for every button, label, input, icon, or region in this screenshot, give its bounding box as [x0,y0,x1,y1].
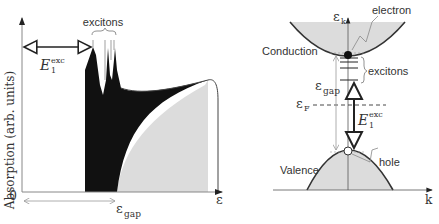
svg-text:k: k [341,17,346,26]
k-axis-label: k [425,193,433,207]
svg-text:E: E [39,57,50,73]
svg-text:gap: gap [323,86,340,96]
svg-text:ε: ε [333,9,340,24]
svg-text:1: 1 [369,121,374,130]
svg-text:gap: gap [124,209,141,219]
exciton-brace-right [361,57,367,83]
origin-label: 0 [9,189,17,203]
conduction-label: Conduction [262,45,318,57]
e1-label-left: E exc 1 [39,56,65,75]
electron-dot [344,51,352,59]
exciton-label-right: excitons [368,65,409,77]
svg-text:1: 1 [51,66,56,75]
e1-label-right: E exc 1 [357,110,383,130]
svg-text:exc: exc [369,110,383,119]
hole-label: hole [379,156,400,168]
fermi-label: ε F [296,96,310,113]
ek-label: ε k [333,9,346,26]
svg-text:E: E [357,112,368,128]
valence-label: Valence [280,164,319,176]
exciton-label-left: excitons [83,16,124,28]
electron-label: electron [372,4,411,16]
svg-text:ε: ε [116,201,123,216]
exciton-brace [92,28,116,35]
svg-text:exc: exc [51,56,65,65]
x-axis-label-left: ε [216,192,223,207]
hole-circle [344,147,352,155]
svg-text:ε: ε [315,78,322,93]
svg-text:ε: ε [296,96,303,111]
absorption-plot [22,18,222,201]
svg-text:F: F [304,104,310,113]
gap-label-left: ε gap [116,201,141,219]
